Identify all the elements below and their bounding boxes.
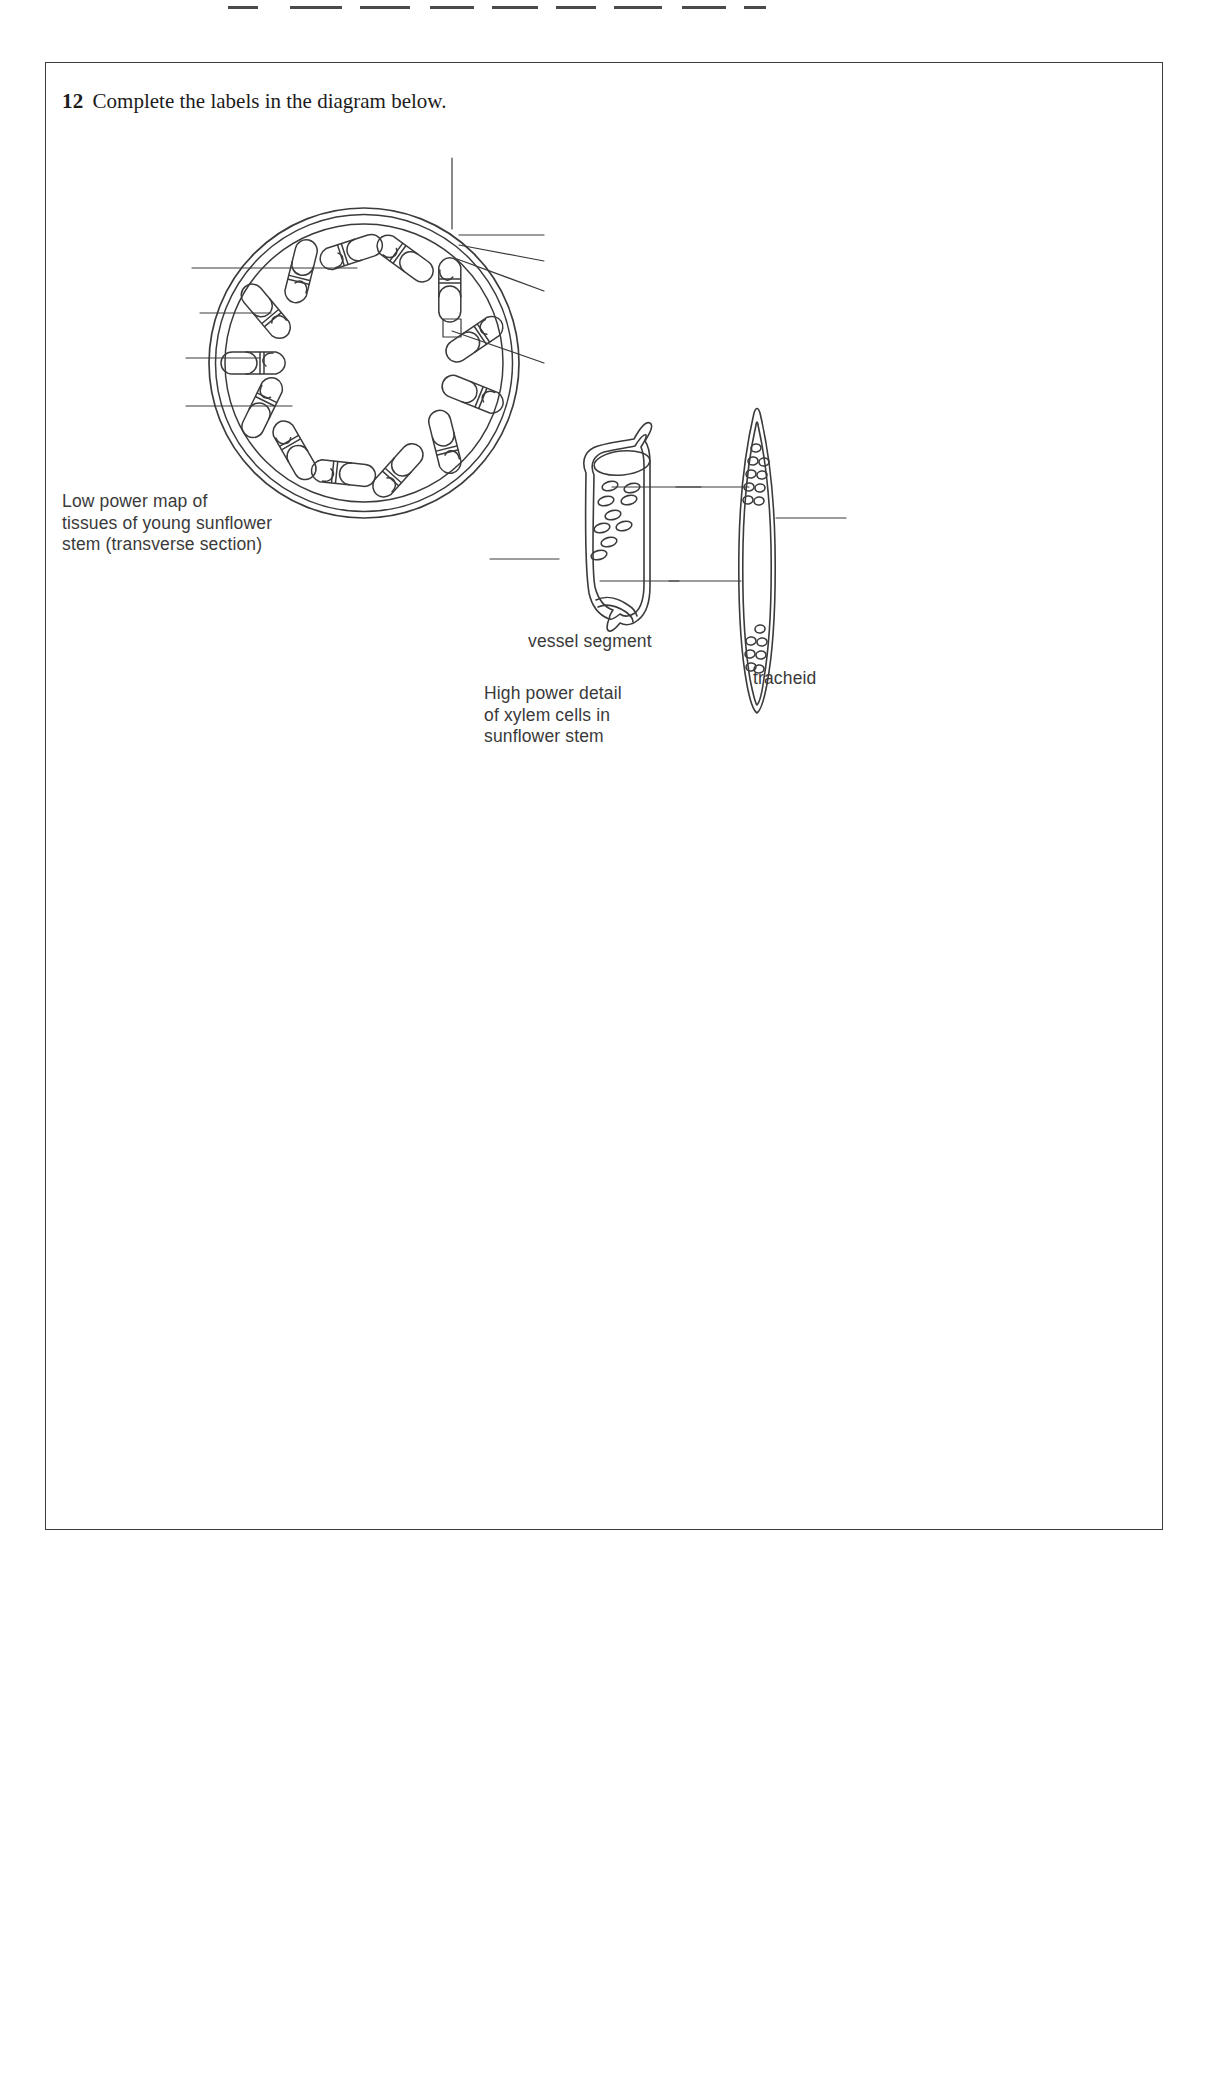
tracheid-label-leader-lines xyxy=(669,487,846,581)
label-leader-lines-right xyxy=(452,158,544,363)
vessel-end-wall xyxy=(596,598,637,616)
scan-artifact-strip xyxy=(0,0,1209,20)
question-text: Complete the labels in the diagram below… xyxy=(93,89,447,113)
tracheid-pits-upper xyxy=(742,443,769,506)
worksheet-page: 12Complete the labels in the diagram bel… xyxy=(45,62,1163,1530)
scan-mark xyxy=(744,6,766,9)
vessel-label-leader-lines xyxy=(490,487,701,581)
scan-mark xyxy=(682,6,726,9)
label-vessel-segment: vessel segment xyxy=(528,631,652,652)
blank-label-line xyxy=(452,331,544,363)
vascular-bundle xyxy=(439,258,461,322)
label-leader-lines-left xyxy=(186,268,357,406)
stem-cortex-boundary xyxy=(225,224,503,502)
vascular-bundle xyxy=(310,459,376,488)
question-number: 12 xyxy=(62,89,84,113)
tracheid-pits-lower xyxy=(744,624,767,674)
caption-high-power-detail: High power detail of xylem cells in sunf… xyxy=(484,683,622,748)
scan-mark xyxy=(360,6,410,9)
vascular-bundle xyxy=(442,312,508,366)
caption-low-power-map: Low power map of tissues of young sunflo… xyxy=(62,491,272,556)
vessel-segment-cell xyxy=(584,423,652,631)
label-tracheid: tracheid xyxy=(753,668,816,689)
vascular-bundle xyxy=(283,237,320,305)
scan-mark xyxy=(614,6,662,9)
vascular-bundle xyxy=(368,439,427,501)
vascular-bundle xyxy=(439,372,507,416)
vessel-perforation-plate xyxy=(593,448,651,478)
stem-epidermis-inner xyxy=(216,215,513,512)
blank-label-line xyxy=(459,245,544,261)
scan-mark xyxy=(430,6,474,9)
vascular-bundle xyxy=(317,232,385,273)
vascular-bundle-ring xyxy=(221,231,507,502)
question-heading: 12Complete the labels in the diagram bel… xyxy=(62,89,446,114)
bundle-detail-box xyxy=(443,319,461,337)
stem-epidermis-outer xyxy=(209,208,519,518)
diagram-line-art xyxy=(46,63,1164,1531)
vessel-pits xyxy=(590,480,641,562)
blank-label-line xyxy=(457,259,544,291)
vascular-bundle xyxy=(373,231,438,287)
scan-mark xyxy=(556,6,596,9)
scan-mark xyxy=(492,6,538,9)
vascular-bundle xyxy=(238,374,286,441)
vascular-bundle xyxy=(426,408,463,476)
vascular-bundle xyxy=(269,417,320,484)
scan-mark xyxy=(290,6,342,9)
vascular-bundle xyxy=(237,280,295,343)
vascular-bundle xyxy=(221,352,285,374)
scan-mark xyxy=(228,6,258,9)
